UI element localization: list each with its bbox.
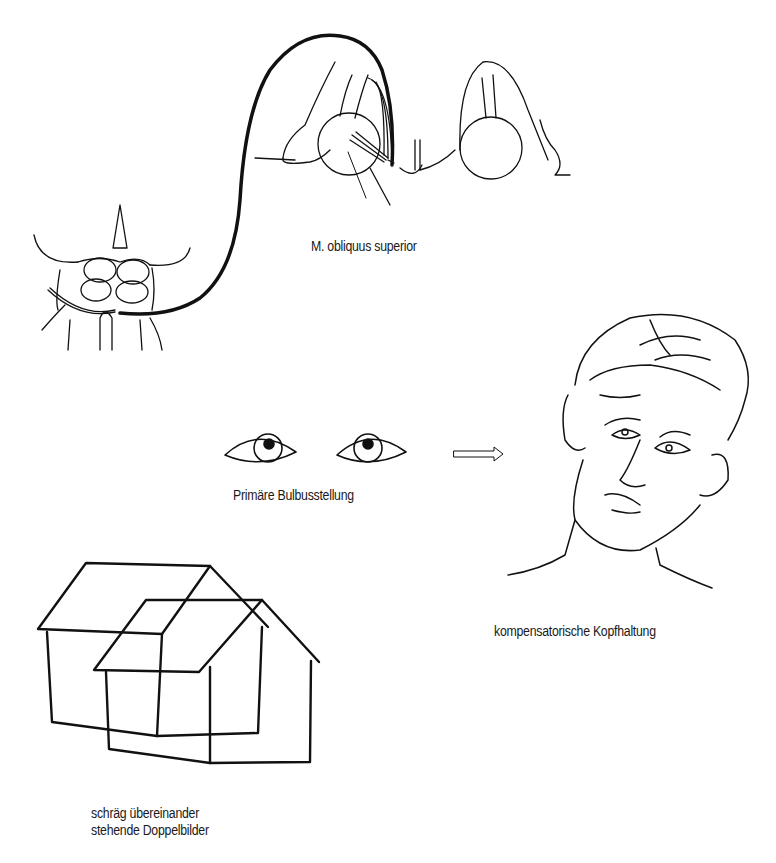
right-eye — [337, 434, 406, 462]
double-vision-label-line-1: schräg übereinander — [91, 805, 199, 821]
double-vision-label-line-2: stehende Doppelbilder — [91, 822, 209, 838]
orbit-drawing — [255, 62, 570, 205]
muscle-label: M. obliquus superior — [311, 238, 417, 254]
double-image-houses — [38, 563, 319, 763]
illustration-canvas — [0, 0, 776, 863]
head-posture-label: kompensatorische Kopfhaltung — [494, 623, 656, 639]
tilted-head-drawing — [508, 314, 748, 588]
left-eye — [225, 434, 296, 462]
hollow-arrow-right-icon — [454, 447, 503, 461]
eye-position-label: Primäre Bulbusstellung — [233, 487, 354, 503]
brainstem-drawing — [34, 205, 190, 350]
